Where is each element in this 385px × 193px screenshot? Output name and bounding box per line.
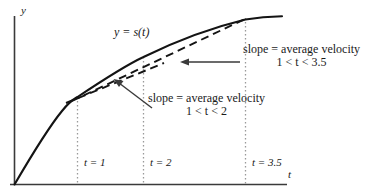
secant-line-1-3.5 (72, 19, 245, 101)
tick-label-t1: t = 1 (84, 156, 105, 168)
callout-secant-1-2-line2: 1 < t < 2 (148, 105, 265, 118)
tick-label-t2: t = 2 (150, 156, 171, 168)
curve-equation-label: y = s(t) (114, 26, 149, 39)
callout-secant-1-2-line1: slope = average velocity (148, 91, 265, 105)
figure-canvas: y t y = s(t) slope = average velocity 1 … (0, 0, 385, 193)
callout-secant-1-3.5: slope = average velocity 1 < t < 3.5 (243, 43, 360, 70)
callout-secant-1-2: slope = average velocity 1 < t < 2 (148, 92, 265, 119)
y-axis-label: y (21, 4, 26, 16)
tick-label-t35: t = 3.5 (252, 156, 282, 168)
x-axis-label: t (288, 168, 291, 180)
callout-secant-1-3.5-line1: slope = average velocity (243, 42, 360, 56)
leader-arrow-diagonal (114, 79, 153, 108)
leader-arrow-horizontal (180, 59, 240, 66)
callout-secant-1-3.5-line2: 1 < t < 3.5 (243, 56, 360, 69)
